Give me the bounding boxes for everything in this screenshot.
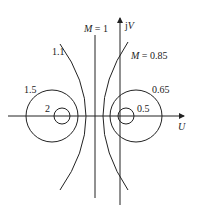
label-m1: M = 1 — [83, 23, 108, 34]
label-m085: M = 0.85 — [130, 50, 167, 61]
m-circle-diagram: M = 1 jV M = 0.85 1.1 1.5 2 0.65 0.5 U — [0, 0, 200, 213]
label-u: U — [178, 121, 186, 132]
label-1-5: 1.5 — [24, 84, 37, 95]
label-1-1: 1.1 — [52, 46, 65, 57]
label-2: 2 — [45, 103, 50, 114]
label-0-5: 0.5 — [137, 103, 150, 114]
label-jv: jV — [124, 20, 136, 31]
label-0-65: 0.65 — [152, 84, 170, 95]
arc-m1-1 — [60, 44, 86, 190]
